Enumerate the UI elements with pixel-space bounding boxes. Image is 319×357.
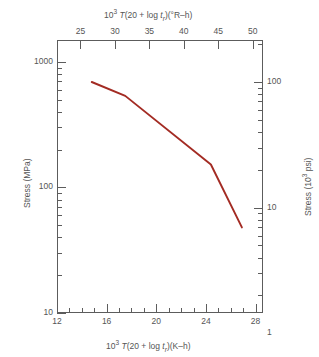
axis-tick-label: 10 [44, 307, 53, 317]
axis-tick-label: 100 [39, 181, 53, 191]
chart-canvas [0, 0, 319, 357]
axis-title-text: 103 T(20 + log tr)(K–h) [106, 341, 191, 351]
axis-tick-label: 1 [267, 327, 272, 337]
axis-tick-label: 25 [76, 26, 85, 36]
axis-tick-label: 30 [110, 26, 119, 36]
axis-tick-label: 45 [214, 26, 223, 36]
axis-tick-label: 16 [102, 316, 111, 326]
axis-tick-label: 40 [179, 26, 188, 36]
axis-tick-label: 1000 [34, 56, 53, 66]
axis-tick-label: 20 [152, 316, 161, 326]
axis-tick-label: 50 [248, 26, 257, 36]
axis-tick-label: 24 [201, 316, 210, 326]
axis-tick-label: 28 [251, 316, 260, 326]
right-axis-title: Stress (103 psi) [301, 158, 313, 216]
axis-title-text: Stress (103 psi) [303, 158, 313, 216]
axis-tick-label: 12 [52, 316, 61, 326]
axis-tick-label: 10 [267, 202, 276, 212]
left-axis-title: Stress (MPa) [22, 158, 32, 208]
axis-tick-label: 100 [267, 76, 281, 86]
axis-tick-label: 35 [145, 26, 154, 36]
data-curve [92, 82, 242, 227]
bottom-axis-title: 103 T(20 + log tr)(K–h) [106, 339, 191, 353]
chart-figure: 103 T(20 + log tr)(°R–h) 253035404550 12… [0, 0, 319, 357]
